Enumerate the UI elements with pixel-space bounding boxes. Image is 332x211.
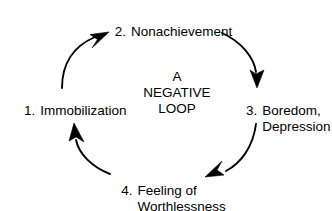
node-text-nonachievement: Nonachievement — [131, 24, 232, 40]
center-caption: A NEGATIVE LOOP — [132, 69, 222, 117]
node-number-nonachievement: 2. — [115, 24, 126, 40]
node-number-boredom-depression: 3. — [246, 103, 257, 119]
center-caption-line-2: NEGATIVE — [132, 85, 222, 101]
center-caption-line-3: LOOP — [132, 101, 222, 117]
node-line-1: Feeling of — [137, 183, 196, 198]
node-line-2: Worthlessness — [137, 199, 225, 211]
node-number-feeling-of-worthlessness: 4. — [121, 183, 132, 199]
node-line-1: Boredom, — [262, 103, 321, 118]
node-number-immobilization: 1. — [24, 103, 35, 119]
node-line-1: Immobilization — [40, 103, 126, 118]
node-text-feeling-of-worthlessness: Feeling ofWorthlessness — [137, 183, 225, 211]
node-label-immobilization: 1.Immobilization — [9, 87, 127, 135]
arrow-head — [250, 70, 264, 88]
node-line-2: Depression — [262, 119, 330, 135]
node-line-1: Nonachievement — [131, 24, 232, 39]
node-text-immobilization: Immobilization — [40, 103, 126, 119]
node-label-feeling-of-worthlessness: 4.Feeling ofWorthlessness — [0, 167, 332, 211]
node-label-nonachievement: 2.Nonachievement — [0, 8, 332, 56]
center-caption-line-1: A — [132, 69, 222, 85]
node-text-boredom-depression: Boredom,Depression — [262, 103, 330, 135]
negative-loop-diagram: 2.Nonachievement 1.Immobilization 3.Bore… — [0, 0, 332, 211]
node-label-boredom-depression: 3.Boredom,Depression — [231, 87, 331, 151]
